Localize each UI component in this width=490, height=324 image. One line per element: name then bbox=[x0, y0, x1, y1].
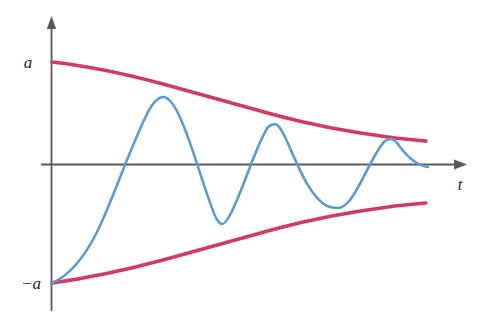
lower-envelope-curve bbox=[52, 203, 426, 283]
time-axis bbox=[41, 160, 467, 170]
amplitude-top-label: a bbox=[24, 53, 33, 72]
amplitude-bottom-label: −a bbox=[21, 274, 41, 293]
damped-oscillation-chart: a −a t bbox=[0, 0, 490, 324]
upper-envelope-curve bbox=[52, 62, 426, 141]
time-axis-arrow-icon bbox=[454, 160, 467, 170]
time-axis-label: t bbox=[458, 175, 464, 194]
amplitude-axis-arrow-icon bbox=[47, 16, 56, 29]
amplitude-axis bbox=[47, 16, 56, 311]
damped-oscillation-curve bbox=[52, 97, 428, 283]
figure-container: a −a t bbox=[0, 0, 490, 324]
